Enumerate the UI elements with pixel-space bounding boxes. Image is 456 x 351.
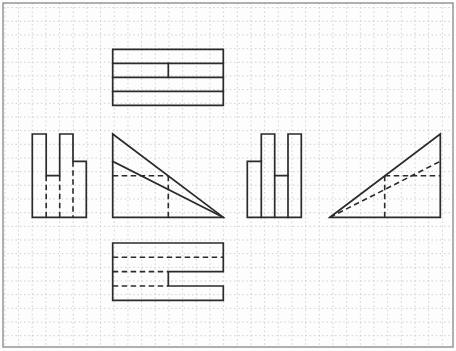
drawing-svg xyxy=(0,0,456,351)
drawing-sheet xyxy=(0,0,456,351)
